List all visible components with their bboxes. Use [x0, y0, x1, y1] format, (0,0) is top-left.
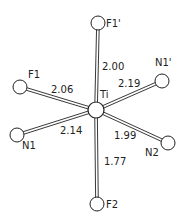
bond-length-label: 1.77: [104, 156, 126, 167]
atom-label: N1': [155, 57, 172, 68]
atom-label: F2: [106, 199, 118, 210]
bond-f1p: [95, 23, 100, 110]
bond-length-label: 2.14: [60, 125, 82, 136]
bond-length-label: 2.19: [118, 78, 140, 89]
atom-label: F1': [106, 18, 121, 29]
center-atom-label: Ti: [99, 89, 109, 100]
atom-f1: [13, 80, 27, 94]
bond-length-label: 2.00: [102, 61, 124, 72]
molecular-structure-diagram: F1'F1N1'N1N2F2Ti2.002.062.192.141.991.77: [0, 0, 188, 219]
atom-f1p: [91, 16, 105, 30]
atom-f2: [90, 197, 104, 211]
bond-f2: [95, 110, 99, 204]
atom-label: N2: [145, 147, 159, 158]
atom-label: N1: [22, 140, 36, 151]
atom-n1p: [155, 74, 169, 88]
bond-length-label: 2.06: [51, 84, 73, 95]
bond-length-label: 1.99: [114, 130, 136, 141]
bond-diagram-svg: F1'F1N1'N1N2F2Ti2.002.062.192.141.991.77: [0, 0, 188, 219]
atom-label: F1: [28, 69, 40, 80]
atom-ti: [88, 102, 104, 118]
bond-n1: [17, 109, 97, 136]
atom-n2: [161, 136, 175, 150]
